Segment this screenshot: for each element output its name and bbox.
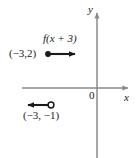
function-label: f(x + 3): [43, 33, 77, 44]
axis-label-y: y: [88, 4, 93, 15]
origin-label: 0: [89, 90, 95, 101]
point-label-open: (−3, −1): [23, 110, 59, 121]
math-figure: y x 0 f(x + 3) (−3,2) (−3, −1): [0, 0, 138, 158]
closed-endpoint-dot: [45, 51, 51, 57]
point-label-closed: (−3,2): [9, 48, 36, 59]
coordinate-plane-graphic: [0, 0, 138, 158]
open-endpoint-circle: [48, 102, 54, 108]
axis-label-x: x: [124, 92, 129, 103]
